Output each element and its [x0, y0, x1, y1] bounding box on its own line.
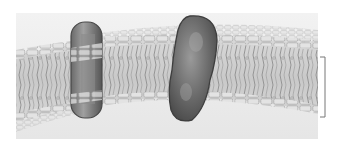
membrane-diagram — [0, 0, 339, 145]
transmembrane-protein-narrow — [71, 22, 102, 118]
bilayer-thickness-bracket — [320, 57, 325, 117]
